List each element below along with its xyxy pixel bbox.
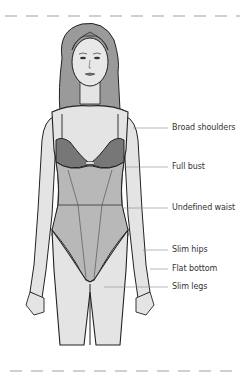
label-slim-hips: Slim hips <box>172 245 208 254</box>
label-undefined-waist: Undefined waist <box>172 203 235 212</box>
dashed-line-icon <box>0 368 243 374</box>
label-full-bust: Full bust <box>172 162 205 171</box>
body-figure-illustration <box>0 0 243 380</box>
label-broad-shoulders: Broad shoulders <box>172 123 235 132</box>
left-arm <box>30 116 56 298</box>
bottom-dashed-border <box>0 359 243 365</box>
label-flat-bottom: Flat bottom <box>172 264 217 273</box>
label-slim-legs: Slim legs <box>172 282 207 291</box>
right-arm <box>124 116 150 298</box>
